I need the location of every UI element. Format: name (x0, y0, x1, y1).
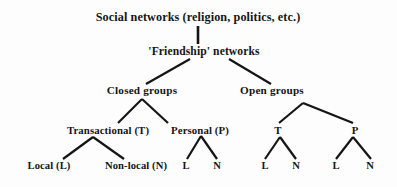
tree-edge-open-to-o-pers (303, 103, 353, 123)
tree-edge-c-trans-to-ct-local (63, 137, 93, 159)
tree-edge-c-pers-to-cp-l (187, 136, 201, 159)
node-open-personal-local: L (332, 161, 339, 172)
node-social-networks: Social networks (religion, politics, etc… (96, 11, 301, 23)
tree-edge-o-pers-to-op-n (353, 137, 371, 159)
node-open-personal: P (352, 125, 359, 136)
node-closed-personal-local: L (182, 161, 189, 172)
node-open-groups: Open groups (240, 85, 304, 96)
node-closed-groups: Closed groups (107, 85, 177, 96)
node-closed-personal: Personal (P) (171, 125, 229, 136)
tree-diagram: Social networks (religion, politics, etc… (0, 0, 397, 187)
tree-edge-c-pers-to-cp-n (201, 136, 217, 159)
tree-edge-o-trans-to-ot-n (280, 137, 296, 159)
node-closed-transactional: Transactional (T) (67, 125, 149, 136)
tree-edge-c-trans-to-ct-nonlocal (93, 137, 124, 159)
tree-edge-friendship-to-closed (146, 59, 190, 84)
node-open-personal-nonlocal: N (366, 161, 374, 172)
tree-edge-friendship-to-open (229, 59, 271, 84)
node-closed-transactional-local: Local (L) (28, 161, 71, 172)
node-closed-personal-nonlocal: N (213, 161, 221, 172)
tree-edge-open-to-o-trans (279, 103, 303, 123)
tree-edge-o-trans-to-ot-l (265, 137, 280, 159)
node-open-transactional-local: L (261, 161, 268, 172)
node-friendship-networks: 'Friendship' networks (148, 46, 259, 58)
node-open-transactional-nonlocal: N (292, 161, 300, 172)
tree-edge-o-pers-to-op-l (336, 137, 353, 159)
node-open-transactional: T (274, 125, 281, 136)
tree-edge-closed-to-c-trans (118, 99, 142, 123)
tree-edge-closed-to-c-pers (142, 99, 168, 123)
node-closed-transactional-nonlocal: Non-local (N) (105, 161, 167, 172)
